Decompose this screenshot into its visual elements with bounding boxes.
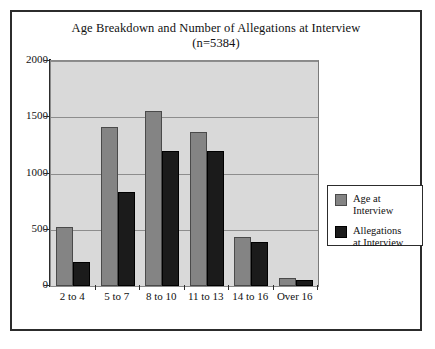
legend-label-allegations: Allegations at Interview — [353, 225, 403, 248]
legend-swatch-icon-age — [335, 194, 347, 206]
bar-group — [234, 61, 268, 286]
bar — [190, 132, 207, 286]
x-tick-label: Over 16 — [265, 290, 325, 303]
legend-item-allegations-at-interview: Allegations at Interview — [335, 225, 416, 248]
bar-group — [190, 61, 224, 286]
bar — [118, 192, 135, 287]
x-tick-mark — [317, 285, 318, 290]
legend-item-age-at-interview: Age at Interview — [335, 193, 416, 216]
bar — [56, 227, 73, 286]
x-tick-mark — [184, 285, 185, 290]
bar-group — [101, 61, 135, 286]
y-tick-label: 0 — [14, 279, 48, 290]
bar — [234, 237, 251, 287]
legend-label-age: Age at Interview — [353, 193, 416, 216]
x-tick-mark — [139, 285, 140, 290]
y-tick-label: 1000 — [14, 167, 48, 178]
chart-subtitle: (n=5384) — [12, 36, 420, 51]
x-axis: 2 to 45 to 78 to 1011 to 1314 to 16Over … — [50, 290, 317, 310]
chart-legend: Age at Interview Allegations at Intervie… — [327, 185, 423, 246]
chart-title-line-1: Age Breakdown and Number of Allegations … — [72, 21, 361, 35]
y-tick-label: 1500 — [14, 110, 48, 121]
bar — [162, 151, 179, 286]
figure-frame: Age Breakdown and Number of Allegations … — [10, 10, 422, 331]
x-tick-mark — [95, 285, 96, 290]
bar — [251, 242, 268, 286]
y-tick-label: 500 — [14, 223, 48, 234]
x-tick-mark — [273, 285, 274, 290]
bar-group — [145, 61, 179, 286]
bar — [101, 127, 118, 286]
y-tick-label: 2000 — [14, 54, 48, 65]
legend-swatch-icon-allegations — [335, 226, 347, 238]
chart-title: Age Breakdown and Number of Allegations … — [12, 21, 420, 51]
bar-group — [56, 61, 90, 286]
bar — [279, 278, 296, 286]
bar-group — [279, 61, 313, 286]
x-tick-mark — [228, 285, 229, 290]
bar — [207, 151, 224, 286]
plot-area — [50, 60, 319, 287]
bar — [296, 280, 313, 286]
bar — [73, 262, 90, 286]
bar — [145, 111, 162, 287]
